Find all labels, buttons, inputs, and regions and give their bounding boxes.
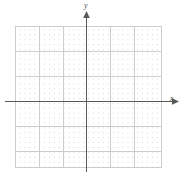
coordinate-grid-svg [0,0,180,177]
minor-gridlines [15,26,162,168]
x-axis-label: x [170,95,174,103]
y-axis-label: y [84,2,88,10]
graph-canvas: y x [0,0,180,177]
y-axis-arrowhead [83,11,90,18]
